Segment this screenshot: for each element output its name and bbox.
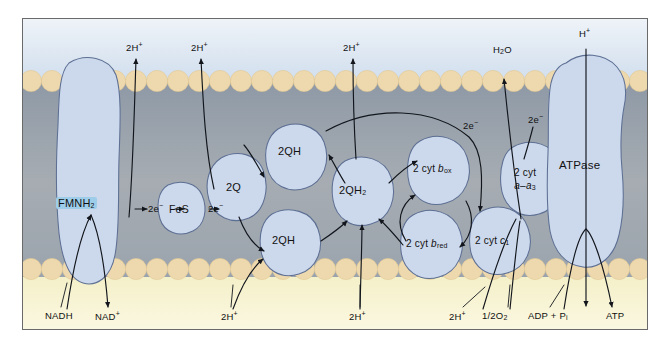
electron-label-3: 2e− bbox=[463, 119, 478, 131]
electron-label-4: 2e− bbox=[528, 113, 543, 125]
top-proton-label-atpase: H+ bbox=[579, 27, 590, 39]
top-proton-label-3: 2H+ bbox=[343, 41, 360, 53]
intermembrane-space-region bbox=[23, 19, 648, 79]
membrane-and-arrows-layer bbox=[23, 19, 647, 329]
cyt-b-red-label: 2 cyt bred bbox=[406, 238, 448, 249]
two-q-label: 2Q bbox=[226, 181, 241, 193]
two-qh2-label: 2QH2 bbox=[339, 184, 366, 196]
complex-i-label: FMNH2 bbox=[56, 197, 97, 209]
water-label: H2O bbox=[493, 44, 512, 55]
two-qh-top-label: 2QH bbox=[278, 145, 301, 157]
atpase-label: ATPase bbox=[559, 159, 600, 171]
bottom-proton-label-2: 2H+ bbox=[349, 310, 366, 322]
bottom-proton-label-1: 2H+ bbox=[221, 310, 238, 322]
cyt-a-a3-label: 2 cyt a–a3 bbox=[514, 166, 536, 194]
electron-label-1: 2e− bbox=[148, 202, 163, 214]
cyt-c1-label: 2 cyt c1 bbox=[475, 235, 509, 246]
diagram-canvas: FMNH2 FeS 2Q 2QH 2QH 2QH2 2 cyt box 2 cy… bbox=[0, 0, 670, 347]
figure-frame: FMNH2 FeS 2Q 2QH 2QH 2QH2 2 cyt box 2 cy… bbox=[22, 18, 648, 330]
top-proton-label-1: 2H+ bbox=[126, 41, 143, 53]
nadh-label: NADH bbox=[45, 310, 73, 321]
matrix-region bbox=[23, 277, 648, 330]
bottom-proton-label-3: 2H+ bbox=[449, 310, 466, 322]
fes-label: FeS bbox=[169, 203, 189, 215]
two-qh-bottom-label: 2QH bbox=[272, 234, 295, 246]
atp-label: ATP bbox=[606, 310, 624, 321]
oxygen-label: 1/2O2 bbox=[482, 310, 508, 321]
adp-pi-label: ADP + Pi bbox=[528, 310, 568, 321]
cyt-b-ox-label: 2 cyt box bbox=[413, 163, 452, 174]
complex-i-shape bbox=[57, 58, 121, 284]
top-proton-label-2: 2H+ bbox=[191, 41, 208, 53]
electron-label-2: 2e− bbox=[208, 202, 223, 214]
nad-plus-label: NAD+ bbox=[95, 310, 120, 322]
